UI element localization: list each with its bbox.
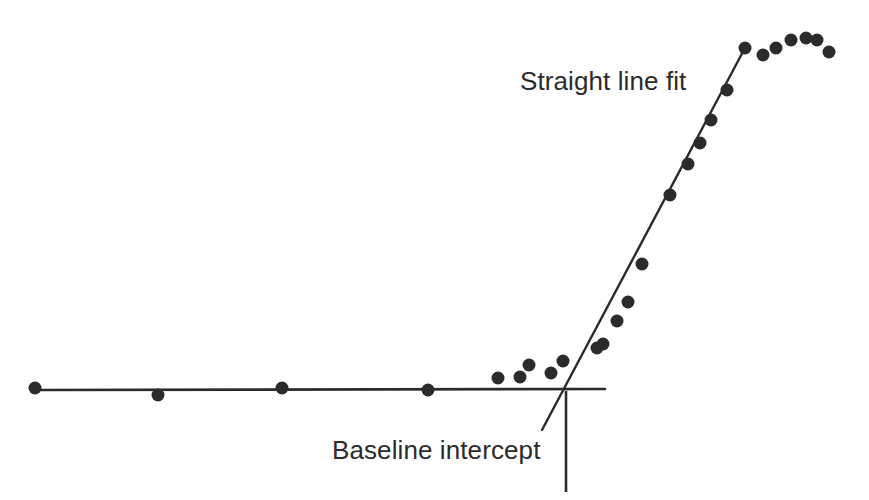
data-point-marker [770,42,783,55]
data-point-marker [694,137,707,150]
data-point-marker [622,296,635,309]
data-point-marker [597,338,610,351]
data-point-marker [152,389,165,402]
data-point-marker [523,359,536,372]
data-point-marker [739,42,752,55]
baseline-intercept-label: Baseline intercept [332,437,540,464]
data-point-marker [721,84,734,97]
data-point-marker [545,367,558,380]
data-points-group [29,32,836,402]
straight-line-fit-label: Straight line fit [520,68,686,95]
data-point-marker [492,372,505,385]
data-point-marker [682,158,695,171]
data-point-marker [636,258,649,271]
straight-line-fit-line [542,46,746,430]
data-point-marker [557,355,570,368]
baseline-line [38,389,605,390]
figure-root: Straight line fit Baseline intercept [0,0,869,500]
data-point-marker [800,32,813,45]
data-point-marker [514,371,527,384]
plot-canvas [0,0,869,500]
data-point-marker [705,114,718,127]
data-point-marker [823,46,836,59]
data-point-marker [757,49,770,62]
data-point-marker [29,382,42,395]
data-point-marker [611,315,624,328]
data-point-marker [422,384,435,397]
data-point-marker [276,382,289,395]
data-point-marker [811,34,824,47]
data-point-marker [664,189,677,202]
data-point-marker [785,34,798,47]
